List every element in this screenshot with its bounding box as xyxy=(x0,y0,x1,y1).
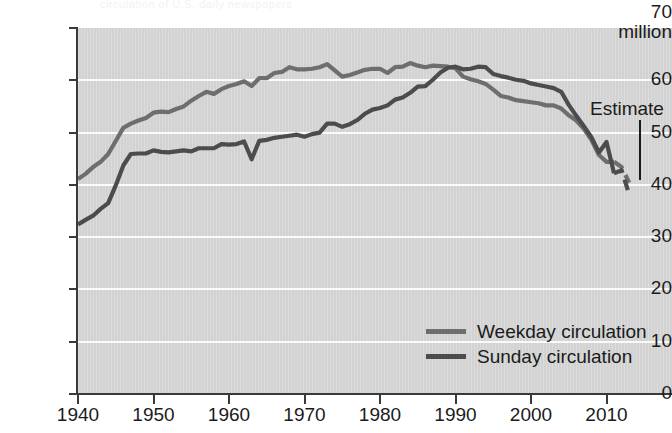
x-label-1950: 1950 xyxy=(114,405,194,425)
x-tick-2010 xyxy=(606,395,608,404)
series-line-weekday xyxy=(78,63,614,179)
x-tick-1990 xyxy=(455,395,457,404)
y-label-50: 50 xyxy=(610,122,672,142)
y-tick-50 xyxy=(69,132,78,134)
x-tick-1940 xyxy=(77,395,79,404)
x-label-2000: 2000 xyxy=(491,405,571,425)
x-label-1970: 1970 xyxy=(265,405,345,425)
x-tick-2000 xyxy=(530,395,532,404)
y-tick-40 xyxy=(69,184,78,186)
series-line-sunday xyxy=(78,67,614,225)
x-axis-line xyxy=(76,393,672,395)
y-tick-70 xyxy=(69,27,78,29)
cut-off-title: circulation of U.S. daily newspapers xyxy=(100,0,560,10)
y-tick-10 xyxy=(69,341,78,343)
y-axis-unit-label: million xyxy=(610,22,672,42)
x-label-1960: 1960 xyxy=(189,405,269,425)
y-tick-20 xyxy=(69,288,78,290)
x-label-1990: 1990 xyxy=(416,405,496,425)
legend-label-sunday: Sunday circulation xyxy=(477,347,632,367)
x-tick-1970 xyxy=(304,395,306,404)
legend-item-weekday: Weekday circulation xyxy=(426,319,647,344)
legend-swatch-sunday xyxy=(426,354,466,359)
y-label-0: 0 xyxy=(610,383,672,403)
x-tick-1960 xyxy=(228,395,230,404)
y-label-70: 70 xyxy=(610,2,672,22)
chart-container: circulation of U.S. daily newspapers 70m… xyxy=(0,0,672,433)
x-label-1940: 1940 xyxy=(38,405,118,425)
y-tick-30 xyxy=(69,236,78,238)
legend: Weekday circulation Sunday circulation xyxy=(426,319,647,369)
x-tick-1950 xyxy=(153,395,155,404)
legend-label-weekday: Weekday circulation xyxy=(477,322,647,342)
y-label-40: 40 xyxy=(610,174,672,194)
y-label-30: 30 xyxy=(610,226,672,246)
x-label-1980: 1980 xyxy=(340,405,420,425)
x-tick-1980 xyxy=(379,395,381,404)
estimate-leader-line xyxy=(639,120,641,180)
y-tick-60 xyxy=(69,79,78,81)
x-label-2010: 2010 xyxy=(567,405,647,425)
y-label-60: 60 xyxy=(610,69,672,89)
y-label-20: 20 xyxy=(610,278,672,298)
legend-item-sunday: Sunday circulation xyxy=(426,344,647,369)
estimate-annotation-label: Estimate xyxy=(590,99,664,119)
legend-swatch-weekday xyxy=(426,329,466,334)
